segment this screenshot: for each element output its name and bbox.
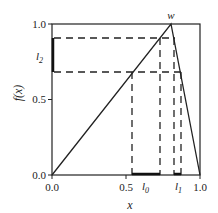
tent-map-curve (52, 24, 200, 175)
y-axis-label: f(x) (11, 85, 25, 102)
plot-frame (52, 24, 200, 175)
y-tick-label-0: 0.0 (32, 169, 46, 181)
tent-map-diagram: 1.0 0.5 0.0 0.0 0.5 1.0 f(x) x w l2 l0 l… (0, 0, 218, 213)
interval-label-l2: l2 (36, 50, 43, 65)
x-tick-label-05: 0.5 (119, 181, 133, 193)
x-tick-label-0: 0.0 (45, 181, 59, 193)
peak-label-w: w (167, 9, 175, 21)
interval-label-l0: l0 (142, 180, 149, 195)
y-tick-label-05: 0.5 (32, 93, 46, 105)
x-axis-label: x (126, 198, 133, 212)
interval-label-l1: l1 (175, 180, 182, 195)
x-tick-label-1: 1.0 (193, 181, 207, 193)
y-tick-label-1: 1.0 (32, 18, 46, 30)
